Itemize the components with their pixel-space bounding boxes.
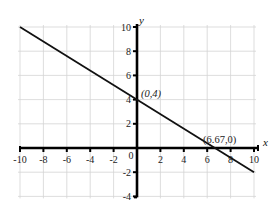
y-tick-label: 6 (126, 70, 131, 81)
y-tick-label: 8 (126, 46, 131, 57)
x-tick-label: 0 (129, 150, 134, 161)
y-tick-label: 10 (121, 22, 131, 33)
x-tick-label: -10 (13, 154, 26, 165)
x-tick-label: -6 (63, 154, 71, 165)
x-tick-label: 2 (158, 154, 163, 165)
x-tick-label: 6 (205, 154, 210, 165)
point-annotations: (0,4)(6.67,0) (141, 88, 237, 146)
x-tick-label: 4 (181, 154, 186, 165)
y-tick-label: -2 (123, 167, 131, 178)
y-axis-label: y (138, 14, 144, 26)
x-tick-label: -8 (39, 154, 47, 165)
x-tick-label: 10 (249, 154, 259, 165)
point-label: (6.67,0) (203, 134, 237, 146)
x-axis-label: x (262, 136, 268, 148)
y-tick-label: 2 (126, 118, 131, 129)
y-tick-label: -4 (123, 191, 131, 202)
x-tick-label: -4 (86, 154, 94, 165)
point-label: (0,4) (141, 88, 162, 100)
x-tick-label: -2 (109, 154, 117, 165)
line-chart: xy -10-8-6-4-20246810-4-2246810 (0,4)(6.… (0, 0, 274, 214)
